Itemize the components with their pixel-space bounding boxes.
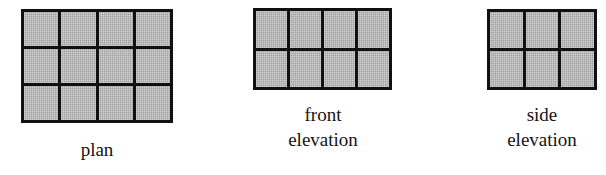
grid-cell bbox=[24, 12, 58, 46]
front-elevation-caption-line-1: front bbox=[248, 102, 398, 127]
grid-cell bbox=[290, 51, 321, 88]
grid-cell bbox=[24, 49, 58, 83]
side-elevation-caption: side elevation bbox=[467, 102, 606, 152]
grid-cell bbox=[358, 11, 389, 48]
grid-cell bbox=[490, 12, 523, 48]
grid-cell bbox=[24, 86, 58, 120]
grid-cell bbox=[561, 12, 594, 48]
grid-cell bbox=[324, 51, 355, 88]
grid-cell bbox=[256, 11, 287, 48]
grid-cell bbox=[136, 12, 170, 46]
grid-cell bbox=[561, 51, 594, 87]
grid-cell bbox=[358, 51, 389, 88]
side-elevation-caption-line-1: side bbox=[467, 102, 606, 127]
grid-cell bbox=[490, 51, 523, 87]
grid-cell bbox=[61, 12, 95, 46]
side-elevation-grid bbox=[487, 9, 597, 90]
grid-cell bbox=[324, 11, 355, 48]
front-elevation-caption: front elevation bbox=[248, 102, 398, 152]
front-elevation-caption-line-2: elevation bbox=[248, 127, 398, 152]
grid-cell bbox=[526, 12, 559, 48]
plan-grid bbox=[21, 9, 173, 123]
plan-caption: plan bbox=[21, 137, 173, 162]
grid-cell bbox=[61, 86, 95, 120]
grid-cell bbox=[526, 51, 559, 87]
plan-caption-line-1: plan bbox=[21, 137, 173, 162]
grid-cell bbox=[61, 49, 95, 83]
grid-cell bbox=[99, 49, 133, 83]
front-elevation-grid bbox=[253, 8, 392, 90]
grid-cell bbox=[256, 51, 287, 88]
grid-cell bbox=[290, 11, 321, 48]
side-elevation-caption-line-2: elevation bbox=[467, 127, 606, 152]
grid-cell bbox=[99, 12, 133, 46]
grid-cell bbox=[136, 86, 170, 120]
grid-cell bbox=[99, 86, 133, 120]
grid-cell bbox=[136, 49, 170, 83]
figure-canvas: plan front elevation side elevation bbox=[0, 0, 606, 175]
